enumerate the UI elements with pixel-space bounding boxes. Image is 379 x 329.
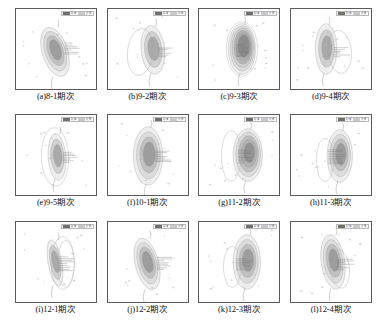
contour-map-j — [108, 222, 188, 302]
legend-swatch-boundary-icon — [261, 225, 268, 228]
legend-label-sandbody: 砂体 — [346, 118, 351, 121]
legend-label-boundary: 边界 — [178, 118, 183, 121]
legend-swatch-sandbody-icon — [246, 12, 253, 15]
legend-swatch-sandbody-icon — [246, 225, 253, 228]
legend-swatch-sandbody-icon — [63, 118, 70, 121]
panel-frame-h: 砂体边界 — [290, 114, 372, 196]
legend-label-sandbody: 砂体 — [71, 225, 76, 228]
legend-swatch-boundary-icon — [170, 118, 177, 121]
panel-frame-c: 砂体边界 — [198, 8, 280, 90]
panel-k: 砂体边界(k)12-3期次 — [194, 221, 286, 327]
sand-body-lobe-c — [229, 24, 256, 75]
panel-frame-e: 砂体边界 — [15, 114, 97, 196]
legend-swatch-sandbody-icon — [338, 225, 345, 228]
legend-label-sandbody: 砂体 — [254, 118, 259, 121]
contour-map-h — [291, 115, 371, 195]
legend-swatch-boundary-icon — [170, 225, 177, 228]
sand-body-lobe-h — [327, 130, 352, 183]
panel-caption-b: (b)9-2期次 — [128, 91, 166, 102]
panel-caption-i: (i)12-1期次 — [36, 304, 77, 315]
legend-swatch-sandbody-icon — [338, 12, 345, 15]
panel-caption-g: (g)11-2期次 — [218, 197, 260, 208]
legend-c: 砂体边界 — [244, 11, 277, 16]
panel-caption-a: (a)8-1期次 — [37, 91, 75, 102]
legend-swatch-boundary-icon — [78, 118, 85, 121]
legend-label-sandbody: 砂体 — [163, 225, 168, 228]
legend-swatch-boundary-icon — [261, 12, 268, 15]
panel-frame-i: 砂体边界 — [15, 221, 97, 303]
panel-frame-g: 砂体边界 — [198, 114, 280, 196]
panel-j: 砂体边界(j)12-2期次 — [102, 221, 194, 327]
legend-label-boundary: 边界 — [178, 12, 183, 15]
panel-frame-j: 砂体边界 — [107, 221, 189, 303]
panel-e: 砂体边界(e)9-5期次 — [10, 114, 102, 220]
legend-label-sandbody: 砂体 — [163, 12, 168, 15]
legend-label-boundary: 边界 — [86, 12, 91, 15]
panel-f: 砂体边界(f)10-1期次 — [102, 114, 194, 220]
legend-label-sandbody: 砂体 — [71, 12, 76, 15]
sand-body-lobe-f — [133, 127, 162, 186]
legend-label-boundary: 边界 — [269, 118, 274, 121]
sand-body-lobe-a — [35, 24, 75, 80]
panel-frame-k: 砂体边界 — [198, 221, 280, 303]
panel-figure-grid: 砂体边界(a)8-1期次砂体边界(b)9-2期次砂体边界(c)9-3期次砂体边界… — [0, 0, 379, 329]
sand-body-lobe-d — [316, 24, 337, 75]
contour-map-c — [199, 9, 279, 89]
legend-swatch-boundary-icon — [261, 118, 268, 121]
legend-h: 砂体边界 — [336, 117, 369, 122]
panel-h: 砂体边界(h)11-3期次 — [285, 114, 377, 220]
panel-d: 砂体边界(d)9-4期次 — [285, 8, 377, 114]
legend-swatch-boundary-icon — [78, 225, 85, 228]
contour-map-f — [108, 115, 188, 195]
contour-map-d — [291, 9, 371, 89]
panel-frame-f: 砂体边界 — [107, 114, 189, 196]
legend-e: 砂体边界 — [61, 117, 94, 122]
legend-swatch-boundary-icon — [170, 12, 177, 15]
panel-caption-e: (e)9-5期次 — [37, 197, 75, 208]
legend-label-sandbody: 砂体 — [254, 225, 259, 228]
contour-map-b — [108, 9, 188, 89]
legend-swatch-boundary-icon — [353, 118, 360, 121]
legend-label-boundary: 边界 — [269, 12, 274, 15]
sand-body-lobe-e — [46, 133, 67, 181]
legend-label-boundary: 边界 — [86, 225, 91, 228]
panel-caption-j: (j)12-2期次 — [127, 304, 168, 315]
panel-l: 砂体边界(l)12-4期次 — [285, 221, 377, 327]
legend-swatch-sandbody-icon — [155, 118, 162, 121]
legend-label-sandbody: 砂体 — [346, 12, 351, 15]
legend-k: 砂体边界 — [244, 224, 277, 229]
legend-label-sandbody: 砂体 — [71, 118, 76, 121]
sand-body-lobe-b — [138, 24, 166, 75]
legend-swatch-boundary-icon — [353, 12, 360, 15]
panel-caption-c: (c)9-3期次 — [220, 91, 258, 102]
panel-caption-d: (d)9-4期次 — [312, 91, 350, 102]
legend-g: 砂体边界 — [244, 117, 277, 122]
legend-label-boundary: 边界 — [269, 225, 274, 228]
contour-map-g — [199, 115, 279, 195]
legend-swatch-sandbody-icon — [155, 12, 162, 15]
contour-map-a — [16, 9, 96, 89]
sand-body-lobe-j — [129, 235, 164, 292]
legend-swatch-sandbody-icon — [338, 118, 345, 121]
panel-caption-l: (l)12-4期次 — [311, 304, 352, 315]
panel-caption-k: (k)12-3期次 — [218, 304, 261, 315]
legend-label-sandbody: 砂体 — [163, 118, 168, 121]
legend-l: 砂体边界 — [336, 224, 369, 229]
contour-map-l — [291, 222, 371, 302]
legend-swatch-boundary-icon — [78, 12, 85, 15]
legend-label-sandbody: 砂体 — [254, 12, 259, 15]
sand-body-lobe-i — [44, 238, 66, 286]
contour-map-k — [199, 222, 279, 302]
panel-a: 砂体边界(a)8-1期次 — [10, 8, 102, 114]
legend-b: 砂体边界 — [153, 11, 186, 16]
legend-label-boundary: 边界 — [178, 225, 183, 228]
legend-i: 砂体边界 — [61, 224, 94, 229]
contour-map-e — [16, 115, 96, 195]
contour-map-i — [16, 222, 96, 302]
sand-body-lobe-l — [318, 233, 349, 290]
legend-label-boundary: 边界 — [361, 12, 366, 15]
panel-frame-d: 砂体边界 — [290, 8, 372, 90]
panel-frame-l: 砂体边界 — [290, 221, 372, 303]
panel-g: 砂体边界(g)11-2期次 — [194, 114, 286, 220]
panel-c: 砂体边界(c)9-3期次 — [194, 8, 286, 114]
